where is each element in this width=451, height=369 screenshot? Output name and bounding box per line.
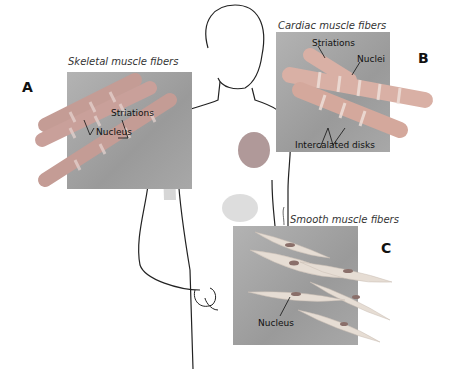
artist-signature [283,207,284,225]
smooth-fibers [0,0,451,369]
smooth-label-nucleus: Nucleus [258,318,294,328]
